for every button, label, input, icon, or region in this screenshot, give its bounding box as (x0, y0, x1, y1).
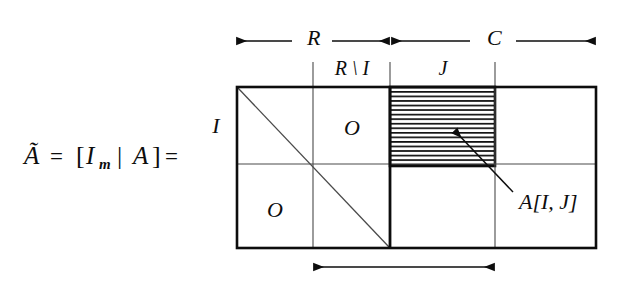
formula-bracket-close: ] (152, 141, 161, 170)
formula-bracket-open: [ (76, 141, 85, 170)
matrix-diagram: Ã = [ I m | A ] = R C R \ I J (0, 0, 631, 290)
zero-block-top-right-label: O (344, 115, 360, 140)
span-r-label: R (306, 25, 321, 50)
zero-block-bottom-left-label: O (267, 197, 283, 222)
column-label-j: J (439, 57, 449, 79)
span-c-label: C (487, 25, 502, 50)
submatrix-hatch-fill (390, 87, 495, 166)
row-label-i: I (211, 113, 221, 138)
submatrix-a-i-j-block (390, 87, 495, 166)
formula-matrix-a: A (131, 142, 149, 169)
top-span-axis: R C (237, 25, 595, 50)
formula-identity-subscript: m (99, 156, 111, 172)
callout-label-a-i-j: A[I, J] (517, 189, 578, 214)
column-label-r-minus-i: R \ I (334, 57, 371, 79)
formula-expression: Ã = [ I m | A ] = (22, 141, 178, 172)
column-group-labels: R \ I J (313, 57, 495, 88)
formula-equals-second: = (165, 144, 178, 169)
formula-a-tilde: Ã (22, 142, 40, 169)
formula-equals-first: = (50, 144, 63, 169)
figure-canvas: Ã = [ I m | A ] = R C R \ I J (0, 0, 631, 290)
formula-identity-symbol: I (85, 142, 96, 169)
formula-pipe-separator: | (117, 141, 122, 170)
